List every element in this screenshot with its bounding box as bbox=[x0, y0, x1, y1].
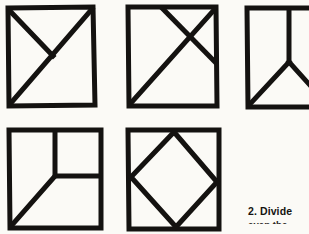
caption-line-2: even the piece bbox=[248, 218, 309, 224]
caption-block: 2. Divide even the piece bbox=[248, 205, 309, 224]
figure-5-square-inscribed-diamond bbox=[128, 130, 219, 229]
scanned-puzzle-page: 2. Divide even the piece bbox=[0, 0, 309, 234]
figure-4-square-inner-square-and-diagonal bbox=[9, 130, 101, 228]
figure-2-main-diagonal bbox=[131, 10, 214, 103]
figure-3-right-branch bbox=[289, 62, 309, 104]
figure-3-outer-square bbox=[247, 8, 309, 107]
figure-2-square-two-parallel-diagonals bbox=[128, 7, 217, 106]
figures-illustration bbox=[0, 0, 309, 234]
figure-3-square-y-division bbox=[247, 8, 309, 107]
figure-1-half-diagonal bbox=[10, 11, 53, 56]
figure-5-inscribed-diamond bbox=[131, 132, 217, 227]
figure-4-inner-square-corner bbox=[55, 131, 100, 176]
figure-1-square-diagonal-and-half-diagonal bbox=[8, 7, 95, 106]
caption-line-1: 2. Divide bbox=[248, 205, 309, 218]
figure-4-diagonal bbox=[12, 176, 55, 225]
figure-5-outer-square bbox=[128, 130, 219, 229]
figure-3-left-branch bbox=[250, 62, 289, 104]
